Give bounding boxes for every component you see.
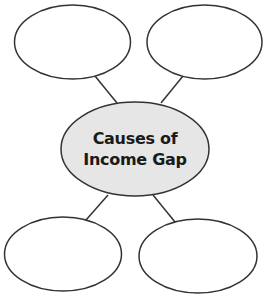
- connector-top-right: [161, 76, 183, 103]
- node-top-left-text[interactable]: [15, 5, 130, 79]
- node-bottom-right-text[interactable]: [139, 219, 257, 293]
- node-bottom-left-text[interactable]: [5, 217, 122, 291]
- node-top-right-text[interactable]: [147, 5, 262, 79]
- connector-bottom-right: [153, 195, 175, 222]
- center-label-line2: Income Gap: [83, 149, 186, 170]
- connector-top-left: [95, 76, 117, 103]
- center-label: Causes of Income Gap: [61, 102, 209, 196]
- center-label-line1: Causes of: [93, 128, 178, 149]
